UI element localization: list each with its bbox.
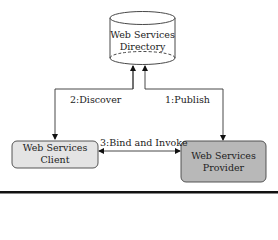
bind-label: 3:Bind and Invoke: [100, 137, 188, 148]
provider-label-line1: Web Services: [181, 150, 266, 162]
client-label-line1: Web Services: [12, 142, 98, 154]
directory-label-line2: Directory: [110, 41, 175, 53]
directory-label: Web Services Directory: [110, 29, 175, 53]
publish-label: 1:Publish: [165, 94, 210, 105]
client-label: Web Services Client: [12, 142, 98, 166]
discover-label: 2:Discover: [70, 94, 121, 105]
provider-label-line2: Provider: [181, 162, 266, 174]
bottom-rule: [0, 191, 278, 194]
client-label-line2: Client: [12, 154, 98, 166]
provider-label: Web Services Provider: [181, 150, 266, 174]
directory-label-line1: Web Services: [110, 29, 175, 41]
